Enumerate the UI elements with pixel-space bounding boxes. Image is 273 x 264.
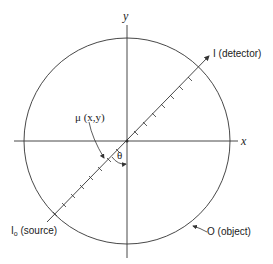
mu-label: μ (x,y) [75,111,105,124]
x-axis-label: x [240,134,247,148]
object-leader [193,226,207,232]
theta-label: θ [117,149,122,161]
ray-ticks [53,77,192,216]
detector-label: I (detector) [213,48,261,59]
source-label: Io (source) [11,225,57,237]
projection-ray [47,56,209,222]
y-axis-label: y [122,9,129,23]
object-label: O (object) [207,226,251,237]
ct-projection-diagram: y x I (detector) μ (x,y) θ Io (source) O… [0,0,273,264]
mu-leader [89,122,104,158]
origin-point [126,140,129,143]
